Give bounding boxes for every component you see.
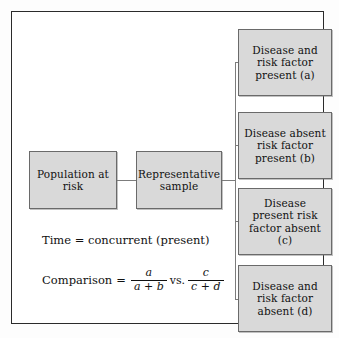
- fraction-exposed-denominator: a + b: [131, 280, 167, 294]
- comparison-label: Comparison: [42, 273, 112, 287]
- figure-frame: Population at risk Representative sample…: [11, 11, 324, 324]
- node-representative-sample-label: Representative sample: [135, 168, 223, 193]
- fraction-exposed-numerator: a: [142, 267, 157, 280]
- connector-population-to-sample: [117, 180, 136, 181]
- connector-sample-to-trunk: [222, 180, 236, 181]
- node-outcome-c-label: Disease present risk factor absent (c): [239, 197, 331, 247]
- fraction-unexposed-numerator: c: [199, 267, 213, 280]
- fraction-unexposed-risk: c c + d: [188, 267, 223, 293]
- node-outcome-b-label: Disease absent risk factor present (b): [239, 127, 331, 164]
- node-representative-sample: Representative sample: [136, 151, 222, 209]
- figure-canvas: Population at risk Representative sample…: [0, 0, 339, 338]
- fraction-exposed-risk: a a + b: [131, 267, 167, 293]
- node-outcome-d-label: Disease and risk factor absent (d): [239, 280, 331, 317]
- node-outcome-a-label: Disease and risk factor present (a): [239, 44, 331, 81]
- comparison-equals-sign: =: [116, 273, 126, 287]
- node-outcome-b: Disease absent risk factor present (b): [238, 112, 332, 179]
- node-outcome-c: Disease present risk factor absent (c): [238, 188, 332, 255]
- time-annotation: Time = concurrent (present): [42, 233, 209, 247]
- node-outcome-d: Disease and risk factor absent (d): [238, 265, 332, 332]
- node-population-at-risk: Population at risk: [29, 151, 117, 209]
- node-population-at-risk-label: Population at risk: [30, 168, 116, 193]
- node-outcome-a: Disease and risk factor present (a): [238, 29, 332, 96]
- fraction-unexposed-denominator: c + d: [188, 280, 223, 294]
- connector-trunk-vertical: [235, 62, 236, 299]
- comparison-annotation: Comparison = a a + b vs. c c + d: [42, 267, 224, 293]
- versus-label: vs.: [170, 274, 185, 287]
